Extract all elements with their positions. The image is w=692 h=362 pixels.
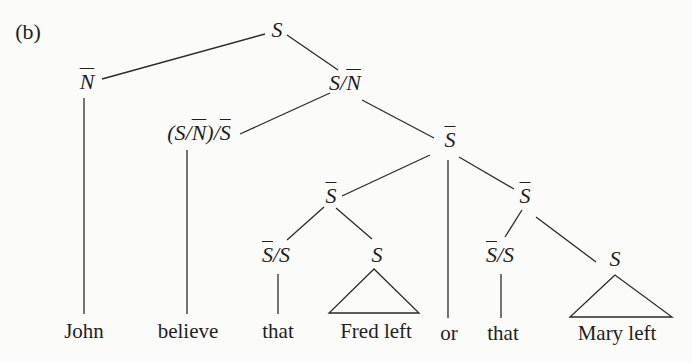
node-verb-category: (S/N)/S <box>167 122 231 144</box>
sbar-top-label: S <box>445 127 456 152</box>
sbar-right-label: S <box>520 183 531 208</box>
tree-edges <box>0 0 692 362</box>
node-comp-left: S/S <box>262 244 290 266</box>
node-sbar-right: S <box>520 185 531 207</box>
vp-nbar-part: N <box>346 70 361 95</box>
verb-cat-part-a: (S/ <box>167 120 191 145</box>
node-sbar-top: S <box>445 129 456 151</box>
leaf-believe: believe <box>158 321 219 342</box>
leaf-mary-left: Mary left <box>578 323 657 344</box>
edge-vp-sbar <box>362 100 434 138</box>
node-vp: S/N <box>329 72 361 94</box>
edge-root-np <box>102 34 265 79</box>
sbar-left-label: S <box>326 183 337 208</box>
comp-left-rest: /S <box>273 242 290 267</box>
triangle-fred-left <box>329 269 419 313</box>
edge-sbarl-s <box>336 208 372 239</box>
verb-cat-part-b: )/ <box>206 120 219 145</box>
node-comp-right: S/S <box>486 244 514 266</box>
leaf-that-1: that <box>262 321 294 342</box>
panel-label: (b) <box>15 21 41 43</box>
node-s-left: S <box>372 244 383 266</box>
leaf-fred-left: Fred left <box>340 321 412 342</box>
edge-root-vp <box>287 35 338 70</box>
verb-cat-sbar: S <box>220 120 231 145</box>
edge-vp-verb <box>240 93 330 134</box>
edge-sbarr-comp <box>505 210 522 237</box>
comp-right-rest: /S <box>497 242 514 267</box>
edge-sbar-right <box>459 157 514 189</box>
comp-left-bar: S <box>262 242 273 267</box>
vp-s-part: S/ <box>329 70 346 95</box>
node-root-s: S <box>272 19 283 41</box>
triangle-mary-left <box>570 275 672 317</box>
comp-right-bar: S <box>486 242 497 267</box>
leaf-that-2: that <box>487 323 519 344</box>
node-sbar-left: S <box>326 185 337 207</box>
node-np-subject: N <box>80 71 95 93</box>
verb-cat-nbar: N <box>192 120 207 145</box>
node-s-right: S <box>610 248 621 270</box>
edge-sbarl-comp <box>287 207 324 240</box>
leaf-or: or <box>440 323 458 344</box>
nbar-label: N <box>80 69 95 94</box>
leaf-john: John <box>64 321 104 342</box>
edge-sbarr-s <box>536 217 596 262</box>
edge-sbar-left <box>342 155 430 196</box>
